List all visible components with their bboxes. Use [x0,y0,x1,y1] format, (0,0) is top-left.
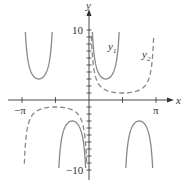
y-tick-label-neg-10: −10 [66,164,84,176]
series-y1-branch-0 [25,32,52,79]
y-axis-label: y [85,0,91,11]
chart: x y −π π 10 −10 y1 y2 [0,0,187,190]
series-y1-branch-2 [92,32,119,79]
series-label-y2: y2 [141,48,151,63]
series-y2-branch-1 [91,36,153,93]
x-tick-label-pi: π [153,104,159,116]
series-y1-branch-3 [126,121,153,168]
x-axis-arrow [167,98,174,103]
series-y2-branch-0 [24,107,86,164]
x-axis-label: x [175,94,181,106]
series-y1-branch-1 [59,121,86,168]
x-tick-label-neg-pi: −π [14,104,26,116]
series-label-y1: y1 [107,40,116,55]
y-tick-label-10: 10 [72,24,84,36]
